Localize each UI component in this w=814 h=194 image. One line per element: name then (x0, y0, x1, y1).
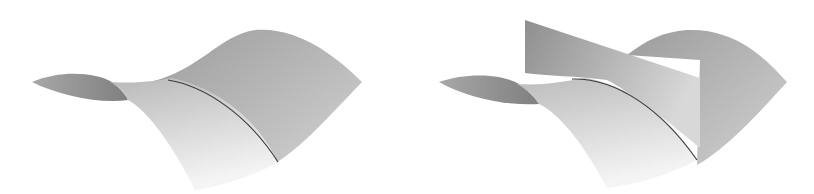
saddle-surface-with-plane-figure (407, 0, 814, 194)
saddle-plane-graphic (407, 0, 814, 194)
saddle-surface-figure (0, 0, 407, 194)
surface-left-lobe (32, 74, 128, 101)
saddle-surface-graphic (0, 0, 407, 194)
surface-left-lobe (439, 75, 539, 104)
